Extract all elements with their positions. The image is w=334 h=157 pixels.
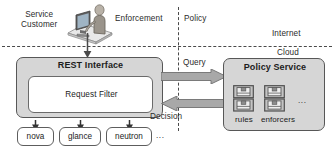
database-stack-icon[interactable] (233, 85, 254, 112)
service-label: nova (27, 132, 45, 141)
services-ellipsis: ... (156, 131, 165, 140)
policy-service-title: Policy Service (224, 63, 326, 73)
arrow-query (161, 69, 227, 84)
rest-interface-box[interactable]: REST Interface Request Filter (16, 57, 163, 118)
stores-ellipsis: ... (298, 96, 307, 105)
arrow-customer-to-rest (83, 33, 92, 59)
rest-interface-title: REST Interface (17, 61, 164, 71)
service-label: glance (68, 132, 92, 141)
internet-cloud-divider (2, 46, 332, 47)
service-box-neutron[interactable]: neutron (106, 127, 152, 146)
request-filter-box[interactable]: Request Filter (28, 76, 153, 113)
label-enforcers: enforcers (255, 115, 301, 125)
label-policy: Policy (184, 14, 206, 24)
arrow-decision (161, 96, 227, 111)
label-cloud: Cloud (277, 48, 299, 58)
service-label: neutron (115, 132, 143, 141)
database-stack-icon[interactable] (264, 85, 285, 112)
label-service-customer: Service Customer (21, 10, 57, 29)
label-enforcement: Enforcement (115, 14, 163, 24)
request-filter-title: Request Filter (29, 90, 154, 100)
label-internet: Internet (272, 29, 301, 39)
service-box-glance[interactable]: glance (59, 127, 101, 146)
architecture-diagram: Service Customer Enforcement Policy Inte… (0, 0, 334, 157)
service-box-nova[interactable]: nova (17, 127, 54, 146)
policy-service-box[interactable]: Policy Service (223, 58, 325, 131)
label-query: Query (183, 58, 206, 68)
label-decision: Decision (150, 112, 182, 122)
